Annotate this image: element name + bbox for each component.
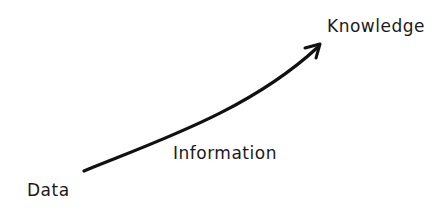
diagram-canvas: Data Information Knowledge [0, 0, 446, 214]
label-information: Information [173, 145, 277, 162]
label-data: Data [27, 182, 70, 199]
label-knowledge: Knowledge [327, 18, 425, 35]
